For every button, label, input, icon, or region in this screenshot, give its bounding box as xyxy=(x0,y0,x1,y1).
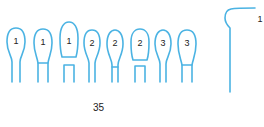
loop-5: 2 xyxy=(107,30,123,82)
loop-label: 1 xyxy=(257,14,262,24)
loop-label: 3 xyxy=(160,38,165,48)
loop-3: 1 xyxy=(60,22,78,82)
loop-label: 1 xyxy=(40,37,45,47)
loop-2: 1 xyxy=(34,29,52,82)
loop-label: 2 xyxy=(89,38,94,48)
loop-label: 1 xyxy=(13,36,18,46)
loop-diagram: 1 1 1 2 2 2 3 3 1 xyxy=(0,0,264,127)
loop-6: 2 xyxy=(131,29,149,82)
loop-4: 2 xyxy=(84,30,100,82)
loop-label: 1 xyxy=(66,36,71,46)
loop-7: 3 xyxy=(155,30,171,82)
page-number: 35 xyxy=(93,102,104,113)
loop-8: 3 xyxy=(178,30,196,82)
side-loop: 1 xyxy=(225,8,263,92)
loop-label: 3 xyxy=(184,38,189,48)
loop-label: 2 xyxy=(137,38,142,48)
loop-1: 1 xyxy=(7,28,25,82)
loop-label: 2 xyxy=(112,38,117,48)
